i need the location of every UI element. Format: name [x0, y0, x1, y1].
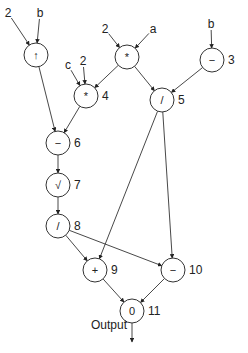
node-operator: − — [209, 54, 215, 66]
node-operator: + — [92, 264, 98, 276]
input-edge-3 — [135, 33, 149, 48]
output-label: Output — [91, 318, 128, 332]
input-edge-4 — [211, 30, 212, 48]
node-number: 9 — [111, 263, 118, 277]
edge-n9-n11 — [103, 279, 124, 302]
edge-n8-n9 — [66, 235, 88, 261]
edge-n2-n4 — [95, 65, 119, 87]
input-edge-5 — [71, 70, 80, 85]
node-n9: +9 — [83, 258, 118, 282]
node-operator: − — [170, 264, 176, 276]
edge-n1-n6 — [39, 67, 55, 132]
node-n8: /8 — [46, 214, 81, 238]
node-n5: /5 — [150, 88, 185, 112]
edge-n10-n11 — [140, 278, 164, 302]
node-n4: *4 — [74, 84, 109, 108]
node-number: 7 — [74, 178, 81, 192]
input-label: b — [208, 17, 215, 31]
input-label: c — [65, 58, 71, 72]
edge-n2-n5 — [135, 66, 155, 90]
input-label: a — [150, 22, 157, 36]
node-number: 10 — [189, 263, 203, 277]
node-operator: − — [55, 137, 61, 149]
node-number: 5 — [178, 93, 185, 107]
input-label: 2 — [102, 22, 109, 36]
edge-n8-n10 — [69, 230, 162, 265]
input-edge-6 — [84, 67, 85, 84]
node-operator: * — [125, 51, 130, 63]
output-layer: Output — [91, 318, 132, 342]
node-n10: −10 — [161, 258, 203, 282]
edge-n5-n10 — [163, 112, 172, 258]
node-number: 8 — [74, 219, 81, 233]
edge-n3-n5 — [171, 67, 202, 92]
node-n6: −6 — [46, 131, 81, 155]
input-label: b — [37, 6, 44, 20]
edge-n4-n6 — [64, 106, 80, 132]
node-number: 6 — [74, 136, 81, 150]
input-edge-2 — [109, 34, 120, 48]
node-n3: −3 — [200, 48, 235, 72]
node-n2: * — [115, 45, 139, 69]
computation-graph: ↑*−3*4/5−6√7/8+9−10011 2b2abc2 Output — [0, 0, 248, 353]
node-n1: ↑ — [24, 43, 48, 67]
input-label: 2 — [80, 54, 87, 68]
node-number: 4 — [102, 89, 109, 103]
node-operator: * — [84, 90, 89, 102]
input-label: 2 — [5, 6, 12, 20]
node-operator: ↑ — [33, 49, 39, 61]
input-edge-0 — [11, 18, 29, 45]
edge-n5-n9 — [99, 111, 157, 259]
node-number: 11 — [148, 304, 161, 318]
node-operator: √ — [55, 179, 62, 191]
input-edge-1 — [37, 19, 39, 43]
node-number: 3 — [228, 53, 235, 67]
node-operator: 0 — [129, 305, 135, 317]
node-n7: √7 — [46, 173, 81, 197]
